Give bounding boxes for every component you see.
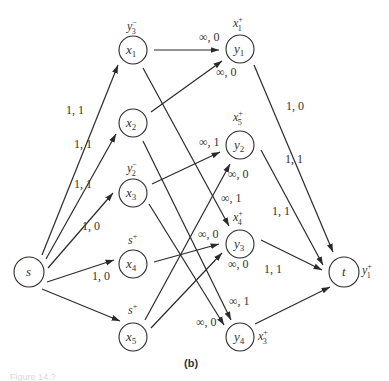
edge-label-s-x4: 1, 0 [82, 219, 100, 233]
edge-s-x1 [42, 65, 118, 255]
node-s: s [14, 257, 44, 287]
flow-network-diagram: 1, 1 1, 1 1, 1 1, 0 1, 0 ∞, 0 ∞, 0 ∞, 1 … [0, 0, 389, 381]
dual-label-y1: x+1 [232, 15, 243, 33]
dual-label-t: y+1 [361, 262, 372, 280]
node-x2: x2 [119, 109, 147, 137]
dual-label-y2: x+5 [232, 109, 243, 127]
node-y3: y3 [226, 230, 254, 258]
dual-label-x4: s+ [128, 232, 138, 247]
edge-label-y3-t: 1, 1 [272, 204, 290, 218]
edge-s-x3 [48, 193, 113, 268]
node-x1: x1 [119, 36, 147, 64]
dual-label-y4: x+3 [257, 328, 268, 346]
edge-label-s-x3: 1, 1 [74, 177, 92, 191]
edge-x4-y3 [154, 244, 219, 262]
edge-label-s-x5: 1, 0 [92, 269, 110, 283]
node-x4: x4 [119, 250, 147, 278]
edge-label-y4-t: 1, 1 [264, 262, 282, 276]
svg-text:t: t [342, 264, 346, 279]
edge-label-x1-y3: ∞, 1 [221, 191, 242, 205]
svg-text:s: s [26, 264, 31, 279]
edge-label-s-x2: 1, 1 [74, 137, 92, 151]
dual-label-x1: y−3 [126, 18, 137, 36]
edge-label-x3-y2: ∞, 1 [199, 135, 220, 149]
edge-x2-y1 [151, 61, 222, 112]
edge-label-x2-y4: ∞, 1 [229, 294, 250, 308]
dual-label-x3: y−2 [126, 160, 137, 178]
edge-s-x5 [42, 289, 120, 321]
node-t: t [329, 257, 359, 287]
node-y2: y2 [226, 131, 254, 159]
edge-label-s-x1: 1, 1 [66, 103, 84, 117]
edge-label-x5-y2: ∞, 0 [228, 167, 249, 181]
edge-y4-t [255, 287, 330, 324]
dual-label-y3: x+4 [232, 209, 243, 227]
dual-label-x5: s+ [128, 302, 138, 317]
edge-label-x5-y3: ∞, 0 [228, 257, 249, 271]
edge-label-y2-t: 1, 1 [285, 152, 303, 166]
node-y4: y4 [226, 323, 254, 351]
node-x3: x3 [119, 179, 147, 207]
node-x5: x5 [119, 323, 147, 351]
edge-label-x2-y1: ∞, 0 [216, 65, 237, 79]
figure-label: Figure 14.? [10, 372, 56, 381]
edge-label-x3-y4: ∞, 0 [196, 315, 217, 329]
node-y1: y1 [226, 35, 254, 63]
edge-label-x1-y1: ∞, 0 [199, 30, 220, 44]
edge-label-y1-t: 1, 0 [286, 99, 304, 113]
edge-s-x2 [46, 134, 116, 259]
edge-label-x4-y3: ∞, 0 [198, 227, 219, 241]
edge-x5-y2 [145, 164, 230, 320]
subfigure-caption: (b) [184, 357, 198, 369]
edge-x3-y4 [149, 204, 224, 325]
